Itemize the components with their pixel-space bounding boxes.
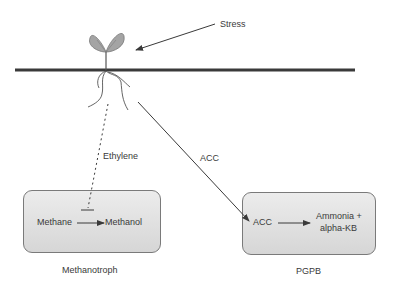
ethylene-label: Ethylene [103, 152, 138, 161]
methane-label: Methane [37, 218, 72, 227]
methanol-label: Methanol [105, 218, 142, 227]
diagram-canvas [0, 0, 396, 285]
plant-icon [88, 33, 130, 110]
methanotroph-caption: Methanotroph [62, 266, 118, 275]
pgpb-acc-label: ACC [253, 218, 272, 227]
acc-signal-arrow [138, 102, 249, 221]
ammonia-label: Ammonia + [316, 212, 362, 221]
acc-signal-label: ACC [200, 154, 219, 163]
stress-arrow [136, 24, 215, 50]
pgpb-caption: PGPB [296, 267, 321, 276]
stress-label: Stress [220, 20, 246, 29]
alpha-kb-label: alpha-KB [320, 224, 357, 233]
